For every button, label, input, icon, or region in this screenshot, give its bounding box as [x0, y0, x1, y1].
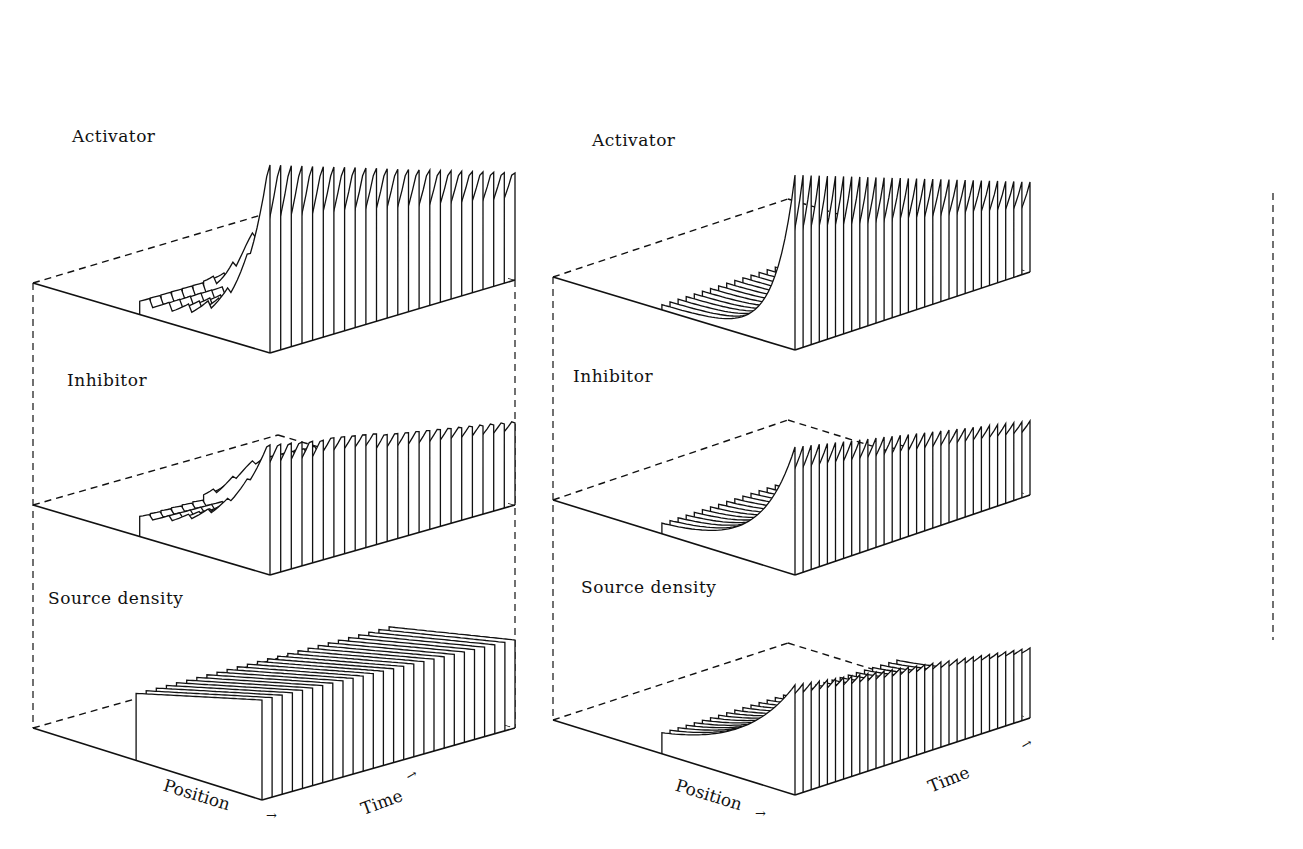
- profile-curve: [140, 165, 270, 353]
- dashed-edge: [553, 420, 788, 500]
- left-source-density-label: Source density: [48, 588, 183, 608]
- left-activator-label: Activator: [72, 126, 156, 146]
- profile-curve: [662, 175, 795, 350]
- left-inhibitor-label: Inhibitor: [67, 370, 147, 390]
- right-position-arrow-icon: →: [755, 806, 766, 821]
- left-inhibitor-layer: [33, 422, 515, 575]
- right-panel: [553, 175, 1273, 795]
- left-source-density-layer: [33, 627, 515, 800]
- figure-canvas: [0, 0, 1303, 849]
- left-activator-layer: [33, 165, 515, 353]
- dashed-edge: [553, 199, 788, 277]
- right-activator-layer: [553, 175, 1030, 350]
- left-position-arrow-icon: →: [266, 808, 277, 823]
- right-activator-label: Activator: [592, 130, 676, 150]
- left-panel: [33, 165, 515, 800]
- right-source-density-label: Source density: [581, 577, 716, 597]
- right-inhibitor-layer: [553, 420, 1030, 575]
- right-inhibitor-label: Inhibitor: [573, 366, 653, 386]
